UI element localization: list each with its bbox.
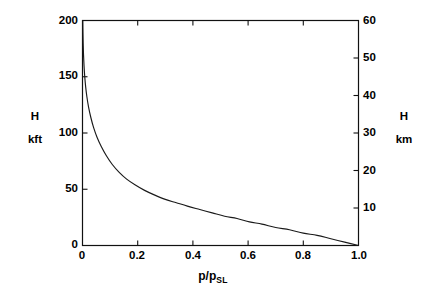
- y-tick-label-right: 50: [363, 52, 376, 64]
- data-curve: [83, 21, 359, 246]
- y-tick-label-left: 150: [59, 70, 78, 82]
- y-axis-title-right-unit: km: [396, 134, 413, 146]
- x-tick-label: 0: [79, 250, 85, 262]
- y-tick-label-right: 30: [363, 127, 376, 139]
- plot-frame: [83, 21, 359, 246]
- y-axis-title-right-symbol: H: [400, 111, 408, 123]
- x-axis-title-main: p/p: [198, 269, 216, 283]
- y-tick-label-right: 60: [363, 15, 376, 27]
- figure-pressure-ratio-vs-altitude: 0 0.2 0.4 0.6 0.8 1.0 0 50 100 150 200 1…: [0, 0, 433, 294]
- y-tick-label-left: 50: [65, 183, 78, 195]
- y-tick-label-right: 10: [363, 202, 376, 214]
- y-tick-label-left: 0: [72, 239, 78, 251]
- y-tick-label-left: 200: [59, 15, 78, 27]
- plot-border: [83, 21, 359, 246]
- x-tick-label: 0.8: [295, 250, 311, 262]
- x-tick-label: 0.6: [240, 250, 256, 262]
- x-tick-label: 1.0: [351, 250, 367, 262]
- tick-marks: [83, 21, 359, 246]
- y-tick-label-left: 100: [59, 127, 78, 139]
- x-axis-title: p/pSL: [198, 270, 227, 285]
- y-tick-label-right: 40: [363, 90, 376, 102]
- x-tick-label: 0.4: [185, 250, 201, 262]
- y-axis-title-left-symbol: H: [31, 111, 39, 123]
- y-tick-label-right: 20: [363, 165, 376, 177]
- chart-canvas: [0, 0, 433, 294]
- x-axis-title-subscript: SL: [216, 275, 227, 285]
- y-axis-title-left-unit: kft: [28, 134, 42, 146]
- x-tick-label: 0.2: [129, 250, 145, 262]
